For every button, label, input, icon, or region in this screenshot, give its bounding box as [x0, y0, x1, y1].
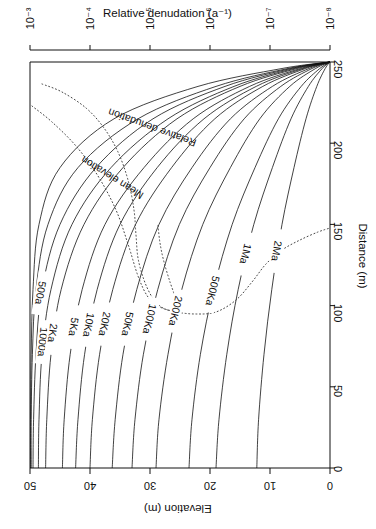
evolution-curve	[31, 62, 330, 468]
evolution-curve	[76, 62, 330, 468]
top-axis-tick: 10⁻⁵	[144, 7, 157, 31]
bottom-axis-tick: 0	[317, 480, 343, 492]
top-axis-tick: 10⁻³	[24, 7, 37, 31]
evolution-curve	[31, 62, 330, 468]
right-axis-tick: 100	[332, 304, 344, 330]
right-axis-title: Distance (m)	[357, 223, 369, 288]
evolution-curve	[38, 62, 330, 468]
bottom-axis-tick: 50	[17, 480, 43, 492]
top-axis-tick: 10⁻⁸	[324, 7, 337, 31]
bottom-axis-tick: 10	[257, 480, 283, 492]
bottom-axis-tick: 40	[77, 480, 103, 492]
top-axis-tick: 10⁻⁴	[84, 7, 97, 31]
evolution-curve	[33, 62, 330, 468]
plot-canvas	[0, 0, 376, 529]
top-axis-tick: 10⁻⁶	[204, 7, 217, 31]
bottom-axis-tick: 20	[197, 480, 223, 492]
figure-hillslope-evolution: Relative denudation (a⁻¹) Distance (m) E…	[0, 0, 376, 529]
top-axis	[30, 45, 330, 50]
bottom-axis-tick: 30	[137, 480, 163, 492]
evolution-curve	[62, 62, 330, 468]
plot-frame	[30, 62, 330, 468]
right-axis-tick: 200	[332, 141, 344, 167]
top-axis-tick: 10⁻⁷	[264, 7, 277, 31]
right-axis-tick: 150	[332, 222, 344, 248]
bottom-axis-title: Elevation (m)	[144, 503, 212, 515]
right-axis-tick: 50	[332, 385, 344, 411]
right-axis-tick: 250	[332, 60, 344, 86]
